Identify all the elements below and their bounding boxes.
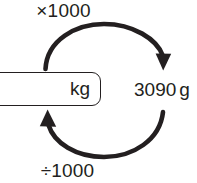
conversion-diagram: f ×1000 kg 3090g ÷1000 xyxy=(0,0,197,183)
answer-box-kg[interactable]: kg xyxy=(0,72,101,106)
value-grams: 3090g xyxy=(134,79,190,100)
multiply-operator-label: ×1000 xyxy=(0,1,197,21)
value-grams-number: 3090 xyxy=(134,79,176,100)
answer-box-unit-label: kg xyxy=(70,79,90,99)
divide-arrow xyxy=(40,110,163,158)
multiply-arrow xyxy=(46,24,172,71)
divide-operator-label: ÷1000 xyxy=(0,161,197,181)
value-grams-unit: g xyxy=(179,79,190,100)
